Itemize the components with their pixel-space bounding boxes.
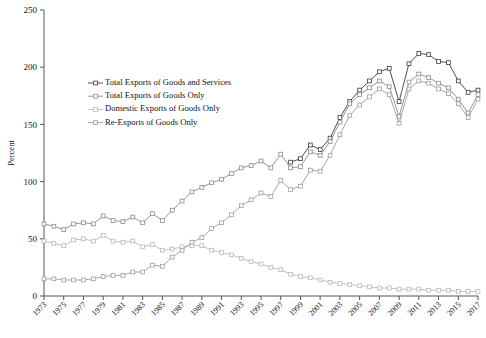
series-marker bbox=[466, 116, 470, 120]
series-marker bbox=[447, 92, 451, 96]
series-marker bbox=[210, 181, 214, 185]
series-marker bbox=[427, 81, 431, 85]
series-marker bbox=[318, 169, 322, 173]
series-marker bbox=[456, 102, 460, 106]
series-marker bbox=[417, 287, 421, 291]
x-axis-tick-label: 1987 bbox=[169, 300, 187, 318]
series-marker bbox=[476, 88, 480, 92]
series-marker bbox=[289, 188, 293, 192]
y-axis-tick-label: 100 bbox=[24, 177, 38, 187]
series-marker bbox=[308, 150, 312, 154]
series-marker bbox=[437, 81, 441, 85]
x-axis-tick-label: 2009 bbox=[386, 300, 404, 318]
series-marker bbox=[368, 79, 372, 83]
series-marker bbox=[308, 276, 312, 280]
series-marker bbox=[377, 79, 381, 83]
series-marker bbox=[289, 272, 293, 276]
x-axis-tick-label: 1983 bbox=[129, 300, 147, 318]
series-marker bbox=[91, 239, 95, 243]
series-marker bbox=[407, 87, 411, 91]
series-marker bbox=[328, 280, 332, 284]
series-marker bbox=[476, 290, 480, 294]
chart-container: 050100150200250Percent197319751977197919… bbox=[0, 0, 486, 338]
legend-item-0: Total Exports of Goods and Services bbox=[88, 77, 232, 87]
series-marker bbox=[131, 215, 135, 219]
series-marker bbox=[417, 79, 421, 83]
series-marker bbox=[308, 143, 312, 147]
series-marker bbox=[427, 53, 431, 57]
series-marker bbox=[387, 286, 391, 290]
series-marker bbox=[259, 191, 263, 195]
legend-item-3: Re-Exports of Goods Only bbox=[88, 117, 198, 127]
series-marker bbox=[42, 277, 46, 281]
series-marker bbox=[466, 290, 470, 294]
series-marker bbox=[348, 283, 352, 287]
series-marker bbox=[456, 97, 460, 101]
series-2 bbox=[42, 233, 480, 293]
x-axis-tick-label: 1975 bbox=[50, 300, 68, 318]
series-marker bbox=[91, 277, 95, 281]
series-marker bbox=[279, 268, 283, 272]
series-marker bbox=[358, 93, 362, 97]
series-marker bbox=[259, 262, 263, 266]
series-marker bbox=[230, 253, 234, 257]
legend-swatch-marker bbox=[94, 121, 98, 125]
series-marker bbox=[72, 278, 76, 282]
y-axis-tick-label: 200 bbox=[24, 62, 38, 72]
series-marker bbox=[151, 263, 155, 267]
series-marker bbox=[42, 239, 46, 243]
series-marker bbox=[220, 251, 224, 255]
series-0 bbox=[289, 52, 480, 164]
series-marker bbox=[368, 285, 372, 289]
series-marker bbox=[328, 140, 332, 144]
x-axis-tick-label: 1973 bbox=[31, 300, 49, 318]
series-marker bbox=[447, 288, 451, 292]
series-marker bbox=[447, 61, 451, 65]
series-marker bbox=[407, 80, 411, 84]
series-marker bbox=[82, 237, 86, 241]
series-marker bbox=[289, 160, 293, 164]
x-axis-tick-label: 1993 bbox=[228, 300, 246, 318]
x-axis-tick-label: 1995 bbox=[248, 300, 266, 318]
y-axis-tick-label: 50 bbox=[28, 234, 38, 244]
series-marker bbox=[101, 233, 105, 237]
series-marker bbox=[279, 152, 283, 156]
series-marker bbox=[338, 282, 342, 286]
series-marker bbox=[141, 245, 145, 249]
x-axis-tick-label: 1991 bbox=[208, 300, 226, 318]
x-axis-tick-label: 1977 bbox=[70, 300, 88, 318]
series-marker bbox=[318, 153, 322, 157]
series-marker bbox=[111, 219, 115, 223]
series-marker bbox=[269, 266, 273, 270]
series-marker bbox=[358, 88, 362, 92]
series-marker bbox=[210, 227, 214, 231]
series-marker bbox=[397, 100, 401, 104]
series-marker bbox=[101, 214, 105, 218]
x-axis-tick-label: 2011 bbox=[406, 300, 423, 317]
series-marker bbox=[220, 177, 224, 181]
series-marker bbox=[269, 195, 273, 199]
series-marker bbox=[437, 288, 441, 292]
series-marker bbox=[52, 277, 56, 281]
series-marker bbox=[160, 248, 164, 252]
series-marker bbox=[200, 185, 204, 189]
series-marker bbox=[466, 90, 470, 94]
series-marker bbox=[476, 97, 480, 101]
series-marker bbox=[447, 86, 451, 90]
series-marker bbox=[358, 284, 362, 288]
series-marker bbox=[42, 222, 46, 226]
series-marker bbox=[328, 153, 332, 157]
series-marker bbox=[407, 62, 411, 66]
series-marker bbox=[299, 165, 303, 169]
series-marker bbox=[82, 278, 86, 282]
series-marker bbox=[101, 275, 105, 279]
series-marker bbox=[72, 222, 76, 226]
series-marker bbox=[299, 275, 303, 279]
x-axis-tick-label: 1985 bbox=[149, 300, 167, 318]
legend-item-2: Domestic Exports of Goods Only bbox=[88, 103, 221, 113]
x-axis-tick-label: 2013 bbox=[425, 300, 443, 318]
series-marker bbox=[407, 287, 411, 291]
series-marker bbox=[249, 164, 253, 168]
series-marker bbox=[368, 95, 372, 99]
series-marker bbox=[190, 240, 194, 244]
